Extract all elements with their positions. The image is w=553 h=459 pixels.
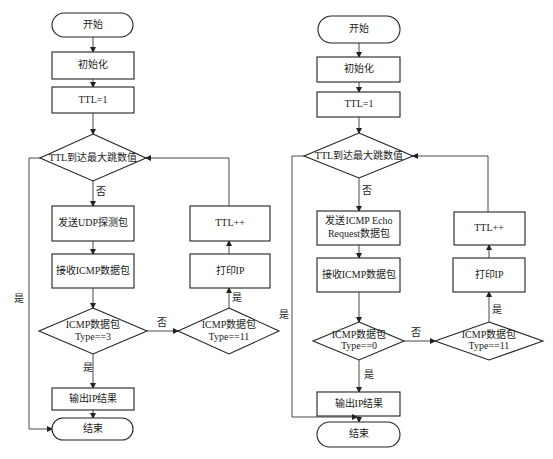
left-decision-type-line1: ICMP数据包 (66, 318, 120, 330)
left-label-yes-print: 是 (232, 292, 242, 303)
right-init-text: 初始化 (344, 62, 374, 74)
right-output-text: 输出IP结果 (335, 397, 384, 409)
flowcharts-canvas: 开始 初始化 TTL=1 TTL到达最大跳数值 否 发送UDP探测包 (0, 0, 553, 459)
right-decision-type-line2: Type==0 (341, 340, 377, 351)
left-label-no-1: 否 (96, 186, 106, 197)
left-output-box: 输出IP结果 (52, 388, 134, 410)
left-ttl-inc-box: TTL++ (190, 206, 270, 241)
left-receive-text: 接收ICMP数据包 (56, 264, 130, 276)
right-ttl-inc-text: TTL++ (474, 222, 504, 233)
left-ttl-set-box: TTL=1 (52, 87, 134, 113)
left-print-ip-text: 打印IP (216, 264, 245, 276)
left-decision-type-line2: Type==3 (75, 331, 111, 342)
right-label-yes-print: 是 (492, 304, 502, 315)
left-receive-box: 接收ICMP数据包 (52, 254, 134, 288)
right-print-ip-box: 打印IP (453, 258, 525, 292)
right-print-ip-text: 打印IP (475, 268, 504, 280)
left-ttl-inc-text: TTL++ (215, 217, 245, 228)
left-send-text: 发送UDP探测包 (58, 216, 128, 228)
left-flowchart: 开始 初始化 TTL=1 TTL到达最大跳数值 否 发送UDP探测包 (14, 13, 279, 440)
right-ttl-set-box: TTL=1 (317, 92, 400, 117)
right-decision-type11-line2: Type==11 (469, 340, 510, 351)
left-label-yes-output: 是 (83, 362, 93, 373)
right-label-yes-output: 是 (364, 369, 374, 380)
right-decision-type: ICMP数据包 Type==0 (313, 322, 404, 360)
left-decision-type11: ICMP数据包 Type==11 (178, 308, 279, 354)
left-send-box: 发送UDP探测包 (52, 206, 134, 241)
left-decision-max-hops: TTL到达最大跳数值 (40, 134, 146, 181)
left-init-box: 初始化 (52, 52, 134, 79)
right-label-no-2: 否 (411, 327, 421, 338)
right-receive-box: 接收ICMP数据包 (317, 258, 400, 292)
left-end-terminal: 结束 (52, 418, 133, 440)
left-decision-type: ICMP数据包 Type==3 (39, 308, 147, 354)
right-init-box: 初始化 (317, 57, 400, 82)
right-label-no-1: 否 (362, 185, 372, 196)
left-end-text: 结束 (83, 422, 103, 434)
left-label-yes-loop: 是 (14, 293, 24, 304)
right-end-terminal: 结束 (317, 422, 400, 447)
left-decision-type11-line1: ICMP数据包 (202, 318, 256, 330)
left-output-text: 输出IP结果 (69, 392, 118, 404)
left-decision-max-hops-text: TTL到达最大跳数值 (49, 151, 137, 163)
right-decision-type-line1: ICMP数据包 (332, 328, 386, 340)
right-ttl-inc-box: TTL++ (454, 212, 525, 245)
right-start-text: 开始 (349, 22, 369, 34)
left-label-no-2: 否 (157, 317, 167, 328)
right-decision-max-hops: TTL到达最大跳数值 (304, 133, 413, 178)
left-start-terminal: 开始 (52, 13, 133, 37)
right-label-yes-loop: 是 (279, 309, 289, 320)
right-send-line1: 发送ICMP Echo (325, 214, 392, 226)
left-print-ip-box: 打印IP (190, 254, 270, 288)
right-decision-type11-line1: ICMP数据包 (462, 328, 516, 340)
right-flowchart: 开始 初始化 TTL=1 TTL到达最大跳数值 否 发送ICMP Echo Re… (279, 16, 543, 447)
left-decision-type11-line2: Type==11 (209, 331, 250, 342)
right-decision-type11: ICMP数据包 Type==11 (435, 322, 543, 360)
right-decision-max-hops-text: TTL到达最大跳数值 (315, 149, 403, 161)
right-output-box: 输出IP结果 (317, 392, 400, 416)
left-init-text: 初始化 (78, 58, 108, 70)
right-end-text: 结束 (349, 427, 369, 439)
right-start-terminal: 开始 (318, 16, 400, 43)
left-ttl-set-text: TTL=1 (79, 94, 108, 105)
right-receive-text: 接收ICMP数据包 (322, 268, 396, 280)
right-send-line2: Request数据包 (328, 227, 390, 239)
right-send-box: 发送ICMP Echo Request数据包 (317, 211, 400, 245)
right-ttl-set-text: TTL=1 (345, 98, 374, 109)
left-start-text: 开始 (83, 18, 103, 30)
